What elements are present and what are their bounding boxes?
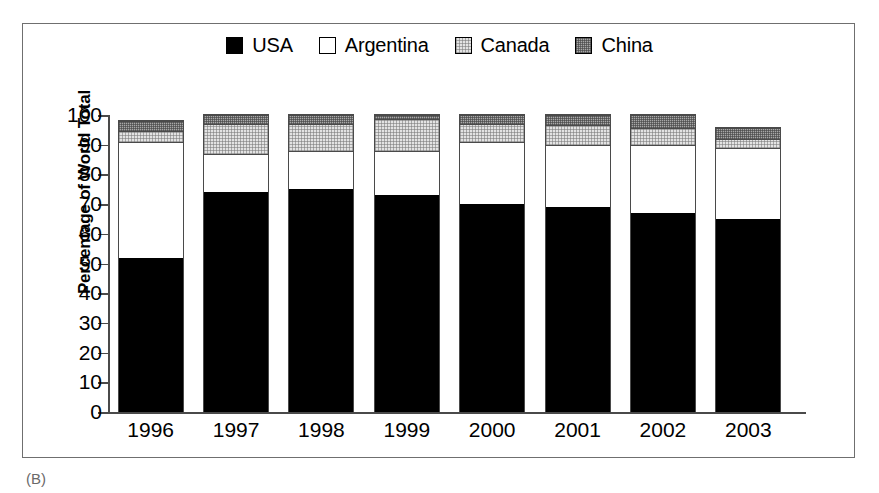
bar-segment-argentina[interactable] [716,148,780,219]
bar-group[interactable] [630,115,696,412]
bar-segment-argentina[interactable] [204,154,268,193]
bar-segment-canada[interactable] [375,119,439,150]
stacked-bar[interactable] [203,114,269,412]
bar-segment-usa[interactable] [375,195,439,412]
stacked-bar[interactable] [545,114,611,412]
stacked-bar[interactable] [374,114,440,412]
bar-segment-canada[interactable] [204,124,268,154]
bar-segment-canada[interactable] [119,131,183,141]
bar-segment-argentina[interactable] [631,145,695,213]
bar-segment-canada[interactable] [716,139,780,148]
x-axis-line [108,412,806,414]
bar-series-container [108,115,791,412]
y-axis-tick-label: 60 [79,222,102,246]
bar-segment-usa[interactable] [631,213,695,412]
y-axis-tick-label: 20 [79,341,102,365]
y-axis-tick-label: 70 [79,192,102,216]
y-axis-tick-label: 10 [79,370,102,394]
stacked-bar[interactable] [715,127,781,412]
bar-segment-usa[interactable] [460,204,524,412]
bar-group[interactable] [545,115,611,412]
bar-segment-canada[interactable] [460,124,524,142]
bar-segment-china[interactable] [289,115,353,124]
x-axis-tick-label: 2003 [715,418,781,442]
bar-segment-china[interactable] [546,115,610,125]
stacked-bar[interactable] [459,114,525,412]
bar-segment-argentina[interactable] [546,145,610,207]
bar-segment-china[interactable] [460,115,524,124]
bar-segment-usa[interactable] [716,219,780,412]
bar-segment-argentina[interactable] [119,142,183,258]
bar-group[interactable] [118,115,184,412]
y-axis-tick-label: 100 [67,103,102,127]
x-axis-tick-label: 1998 [288,418,354,442]
x-axis-tick-label: 2001 [545,418,611,442]
y-axis-tick-label: 90 [79,133,102,157]
bar-segment-usa[interactable] [204,192,268,412]
bar-segment-argentina[interactable] [375,151,439,196]
y-axis-tick-label: 80 [79,162,102,186]
y-axis-tick-label: 40 [79,281,102,305]
plot-area: Percentage of World Total 10090807060504… [23,24,856,459]
panel-caption: (B) [26,470,46,487]
bar-segment-argentina[interactable] [460,142,524,204]
bar-segment-canada[interactable] [289,124,353,151]
x-axis-tick-labels: 19961997199819992000200120022003 [108,418,791,442]
stacked-bar[interactable] [288,114,354,412]
x-axis-tick-label: 2002 [630,418,696,442]
stacked-bar[interactable] [630,114,696,412]
bar-segment-canada[interactable] [631,128,695,144]
bar-group[interactable] [374,115,440,412]
bar-segment-china[interactable] [119,121,183,131]
x-axis-tick-label: 2000 [459,418,525,442]
bar-group[interactable] [715,115,781,412]
bar-segment-argentina[interactable] [289,151,353,190]
x-axis-tick-label: 1999 [374,418,440,442]
bar-group[interactable] [203,115,269,412]
bar-segment-usa[interactable] [289,189,353,412]
bar-segment-china[interactable] [631,115,695,128]
bar-segment-china[interactable] [204,115,268,124]
x-axis-tick-label: 1996 [118,418,184,442]
bar-group[interactable] [459,115,525,412]
y-axis-tick-label: 30 [79,311,102,335]
x-axis-tick-label: 1997 [203,418,269,442]
figure-frame: USA Argentina Canada China Percentage of… [22,23,855,458]
y-axis-tick-label: 50 [79,252,102,276]
bar-group[interactable] [288,115,354,412]
stacked-bar[interactable] [118,120,184,412]
y-axis-tick-label: 0 [90,400,102,424]
bar-segment-china[interactable] [716,128,780,138]
bar-segment-usa[interactable] [119,258,183,412]
bar-segment-usa[interactable] [546,207,610,412]
bar-segment-canada[interactable] [546,125,610,144]
